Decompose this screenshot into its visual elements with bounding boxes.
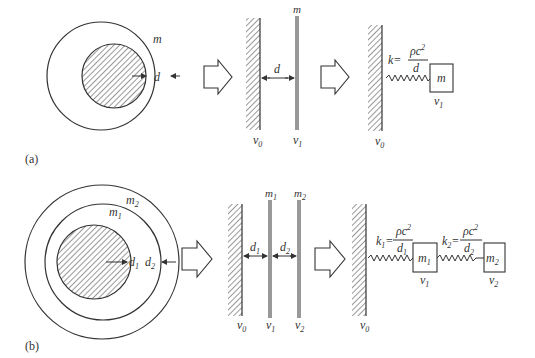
panel-b-sphere: d1 d2 m2 m1	[25, 185, 179, 339]
mass2-velocity: v2	[489, 273, 498, 289]
mass-label: m	[437, 71, 446, 85]
panel-b-spring-model: m1 m2 k1= ρc2 d1 k2= ρc2 d2 v1 v2 v0	[352, 204, 505, 334]
gap1-label: d1	[250, 240, 260, 256]
inner-shell-label: m1	[109, 205, 122, 221]
hatched-wall	[228, 204, 242, 316]
v2-label: v2	[295, 318, 304, 334]
caption-a: (a)	[25, 152, 38, 166]
spring-icon	[386, 75, 431, 81]
gap2-label: d2	[280, 240, 290, 256]
k1-numerator: ρc2	[395, 223, 411, 238]
plate-velocity: v1	[293, 133, 302, 149]
wall-velocity: v0	[253, 133, 262, 149]
v1-label: v1	[266, 318, 275, 334]
k2-denominator: d2	[464, 241, 474, 257]
plate-label: m	[293, 3, 301, 15]
panel-a-sphere: d m	[47, 22, 180, 130]
k1-denominator: d1	[397, 241, 407, 257]
panel-a: d m d m v0 v1 m k= ρc	[25, 3, 453, 166]
transform-arrow-icon	[204, 60, 232, 94]
panel-b: d1 d2 m2 m1 d1 d2 m1 m2 v0 v1	[25, 185, 505, 353]
transform-arrow-icon	[182, 241, 212, 277]
hatched-wall	[368, 25, 382, 131]
k-numerator: ρc2	[409, 43, 425, 58]
k1-label: k1=	[376, 234, 393, 250]
hatched-wall	[246, 18, 260, 130]
k2-numerator: ρc2	[462, 223, 478, 238]
transform-arrow-icon	[321, 60, 349, 94]
panel-a-plates: d m v0 v1	[246, 3, 302, 149]
plate1-label: m1	[265, 187, 277, 202]
wall-velocity: v0	[360, 318, 369, 334]
plate2-label: m2	[294, 187, 306, 202]
k-denominator: d	[413, 61, 420, 75]
panel-b-plates: d1 d2 m1 m2 v0 v1 v2	[228, 187, 306, 334]
transform-arrow-icon	[315, 241, 345, 277]
gap1-label: d1	[129, 255, 139, 271]
shell-label: m	[153, 32, 162, 46]
k-label: k=	[388, 53, 401, 67]
diagram-canvas: d m d m v0 v1 m k= ρc	[0, 0, 535, 358]
k2-label: k2=	[442, 234, 459, 250]
gap2-label: d2	[145, 255, 155, 271]
panel-a-spring-model: m k= ρc2 d v1 v0	[368, 25, 453, 150]
mass-velocity: v1	[434, 94, 443, 110]
gap-label: d	[274, 62, 281, 76]
hatched-wall	[352, 204, 366, 316]
v0-label: v0	[237, 318, 246, 334]
mass1-velocity: v1	[420, 273, 429, 289]
outer-shell-label: m2	[126, 193, 139, 209]
gap-label: d	[154, 70, 161, 84]
spring-2-icon	[437, 255, 484, 261]
caption-b: (b)	[25, 339, 39, 353]
wall-velocity: v0	[375, 134, 384, 150]
